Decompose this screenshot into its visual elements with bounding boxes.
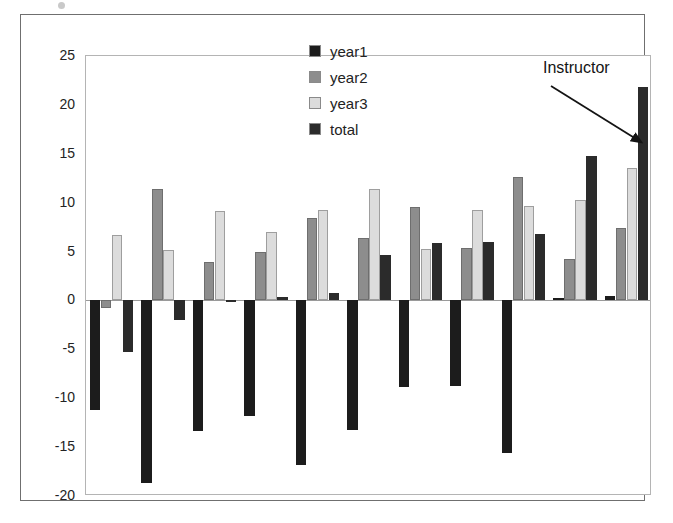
bar-year1-group-5 bbox=[296, 300, 307, 464]
chart-plot-area bbox=[85, 55, 651, 495]
legend-item-label: total bbox=[330, 122, 358, 137]
bar-year2-group-5 bbox=[307, 218, 318, 300]
y-axis-tick-label: 0 bbox=[21, 292, 75, 306]
bar-year3-group-10 bbox=[575, 200, 586, 301]
bar-year3-group-6 bbox=[369, 189, 380, 300]
bar-total-group-2 bbox=[174, 300, 185, 320]
legend-item-year3: year3 bbox=[309, 92, 368, 114]
y-axis-tick-label: 20 bbox=[21, 97, 75, 111]
bar-total-group-9 bbox=[535, 234, 546, 300]
bar-year2-group-2 bbox=[152, 189, 163, 300]
legend-swatch-icon bbox=[309, 97, 321, 109]
legend-swatch-icon bbox=[309, 45, 321, 57]
y-axis-tick-label: -10 bbox=[21, 390, 75, 404]
bar-total-group-3 bbox=[226, 300, 237, 302]
bar-total-group-7 bbox=[432, 243, 443, 301]
y-axis: 2520151050-5-10-15-20 bbox=[21, 15, 85, 500]
y-axis-tick-label: -20 bbox=[21, 488, 75, 502]
legend-item-label: year1 bbox=[330, 44, 368, 59]
bar-year3-group-5 bbox=[318, 210, 329, 300]
annotation-instructor-label: Instructor bbox=[543, 59, 610, 77]
bar-year3-group-1 bbox=[112, 235, 123, 301]
bar-year2-group-9 bbox=[513, 177, 524, 300]
bar-total-group-1 bbox=[123, 300, 134, 352]
bar-year2-group-8 bbox=[461, 248, 472, 301]
bar-total-group-5 bbox=[329, 293, 340, 301]
bar-year3-group-3 bbox=[215, 211, 226, 300]
bar-year1-group-8 bbox=[450, 300, 461, 385]
bar-year3-group-7 bbox=[421, 249, 432, 301]
bar-year3-group-2 bbox=[163, 250, 174, 301]
figure-outer-frame: 2520151050-5-10-15-20 year1year2year3tot… bbox=[20, 14, 645, 501]
bar-year1-group-3 bbox=[193, 300, 204, 431]
y-axis-tick-label: 5 bbox=[21, 244, 75, 258]
bar-total-group-11 bbox=[638, 87, 649, 300]
legend-item-year2: year2 bbox=[309, 66, 368, 88]
bar-year1-group-1 bbox=[90, 300, 101, 410]
bar-year2-group-4 bbox=[255, 252, 266, 301]
bar-year1-group-7 bbox=[399, 300, 410, 387]
bars-layer bbox=[86, 56, 650, 494]
bar-total-group-8 bbox=[483, 242, 494, 301]
legend-item-label: year3 bbox=[330, 96, 368, 111]
bar-year2-group-3 bbox=[204, 262, 215, 300]
bar-year1-group-11 bbox=[605, 296, 616, 301]
legend-swatch-icon bbox=[309, 123, 321, 135]
legend-swatch-icon bbox=[309, 71, 321, 83]
bar-year3-group-11 bbox=[627, 168, 638, 300]
bar-year2-group-10 bbox=[564, 259, 575, 300]
bar-year2-group-11 bbox=[616, 228, 627, 300]
bar-year3-group-4 bbox=[266, 232, 277, 300]
chart-legend: year1year2year3total bbox=[309, 40, 368, 144]
y-axis-tick-label: 10 bbox=[21, 195, 75, 209]
legend-item-total: total bbox=[309, 118, 368, 140]
bar-year3-group-8 bbox=[472, 210, 483, 300]
bar-year2-group-1 bbox=[101, 300, 112, 308]
bar-year3-group-9 bbox=[524, 206, 535, 301]
scan-artifact-speck bbox=[58, 2, 65, 9]
bar-year1-group-10 bbox=[553, 298, 564, 300]
bar-year1-group-9 bbox=[502, 300, 513, 453]
y-axis-tick-label: 25 bbox=[21, 48, 75, 62]
legend-item-label: year2 bbox=[330, 70, 368, 85]
y-axis-tick-label: 15 bbox=[21, 146, 75, 160]
y-axis-tick-label: -15 bbox=[21, 439, 75, 453]
bar-year1-group-4 bbox=[244, 300, 255, 415]
legend-item-year1: year1 bbox=[309, 40, 368, 62]
bar-total-group-4 bbox=[277, 297, 288, 301]
bar-year1-group-6 bbox=[347, 300, 358, 429]
y-axis-tick-label: -5 bbox=[21, 341, 75, 355]
bar-total-group-6 bbox=[380, 255, 391, 300]
bar-total-group-10 bbox=[586, 156, 597, 301]
bar-year1-group-2 bbox=[141, 300, 152, 483]
bar-year2-group-6 bbox=[358, 238, 369, 301]
bar-year2-group-7 bbox=[410, 207, 421, 301]
